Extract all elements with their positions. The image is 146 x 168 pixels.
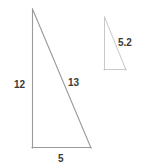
- large-triangle-hypotenuse-label: 13: [68, 78, 79, 88]
- large-triangle-vertical-leg-label: 12: [14, 80, 25, 90]
- geometry-figure-canvas: 12 13 5 5.2: [0, 0, 146, 168]
- small-triangle-hypotenuse-label: 5.2: [118, 38, 132, 48]
- large-triangle-base-label: 5: [58, 154, 64, 164]
- large-triangle-hypotenuse: [33, 9, 92, 148]
- large-right-triangle: [32, 9, 91, 148]
